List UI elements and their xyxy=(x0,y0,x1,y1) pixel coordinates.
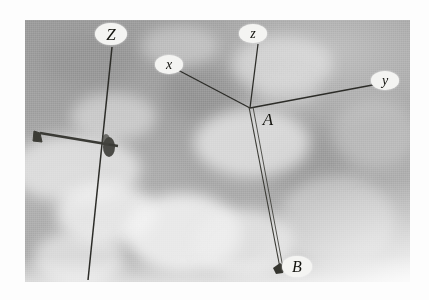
axis-line-z xyxy=(250,44,258,108)
label-x: x xyxy=(155,55,183,74)
label-y: y xyxy=(371,71,399,90)
label-B: B xyxy=(282,256,312,277)
axis-line-x xyxy=(176,69,250,108)
figure-canvas: Z z x y A B xyxy=(0,0,429,300)
segment-line-AB-parallel xyxy=(253,107,283,268)
mast-node-blur xyxy=(102,134,110,146)
annotation-overlay xyxy=(0,0,429,300)
mast-pole-line xyxy=(88,47,112,280)
segment-line-AB xyxy=(249,107,280,268)
axis-line-y xyxy=(250,84,378,108)
label-z: z xyxy=(239,24,267,43)
label-Z: Z xyxy=(95,23,127,45)
label-A: A xyxy=(258,109,278,129)
